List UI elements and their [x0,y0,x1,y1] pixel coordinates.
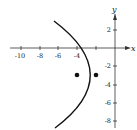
y-tick-label: -4 [105,81,111,89]
y-tick-label: 2 [107,26,111,34]
x-axis-label: x [131,44,136,53]
x-tick-label: -4 [74,52,80,60]
x-tick-labels: -10 -8 -6 -4 [15,52,80,60]
y-axis-arrow-icon [113,14,117,20]
y-tick-label: -8 [105,117,111,125]
vertex-point [94,73,99,78]
y-axis-label: y [111,5,117,14]
focus-point [75,73,80,78]
y-tick-labels: 2 -2 -4 -6 -8 [105,26,111,125]
parabola-chart: x y -10 -8 -6 -4 2 -2 -4 -6 -8 [0,0,137,130]
parabola-curve [54,21,90,128]
x-tick-label: -10 [15,52,25,60]
x-tick-label: -6 [55,52,61,60]
y-tick-label: -6 [105,99,111,107]
chart-svg: x y -10 -8 -6 -4 2 -2 -4 -6 -8 [0,0,137,130]
y-tick-label: -2 [105,62,111,70]
x-tick-label: -8 [37,52,43,60]
